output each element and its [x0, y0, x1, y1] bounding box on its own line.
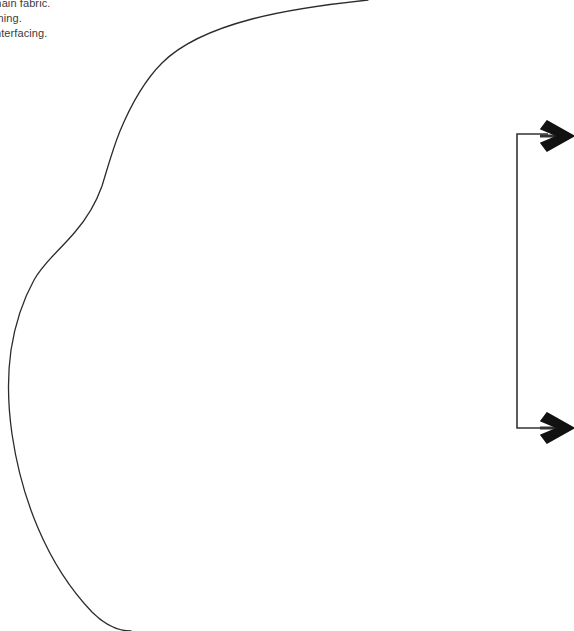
pattern-sheet-page: 1 main fabric. 1 lining. 1 interfacing. [0, 0, 574, 631]
pattern-piece-curve [8, 0, 368, 631]
pattern-line-art [0, 0, 574, 631]
measurement-bracket [517, 134, 548, 428]
